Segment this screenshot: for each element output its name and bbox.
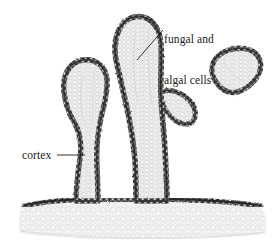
label-cortex: cortex [22,149,51,163]
right-lobe [212,48,261,92]
center-lobe [115,17,167,201]
lichen-illustration [0,0,280,242]
basal-thallus [19,199,266,239]
label-fungal-line2: algal cells [164,74,214,88]
figure-container: fungal and algal cells cortex [0,0,280,242]
label-fungal-algal-cells: fungal and algal cells [164,6,214,114]
thallus-drawing [19,17,266,239]
label-fungal-line1: fungal and [164,33,214,47]
left-lobe [64,60,107,201]
